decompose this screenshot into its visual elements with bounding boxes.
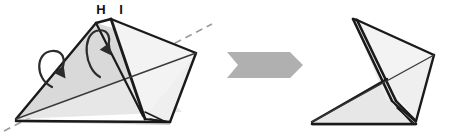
fold-diagram-canvas: H I	[0, 0, 456, 138]
left-edge-bottom	[16, 121, 170, 122]
vertex-label-I: I	[119, 2, 123, 17]
fold-diagram-figure: H I	[0, 0, 456, 138]
left-figure-group: H I	[4, 2, 212, 131]
right-figure-group	[312, 19, 434, 126]
vertex-label-H: H	[96, 2, 105, 17]
left-edge-spine	[96, 19, 111, 23]
transition-arrow-icon	[227, 52, 303, 78]
